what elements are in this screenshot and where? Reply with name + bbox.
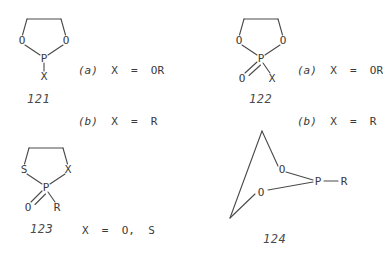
compound-number-123: 123 xyxy=(30,222,53,236)
legend-121-row-b: (b) X = R xyxy=(78,113,164,130)
legend-121-row-a: (a) X = OR xyxy=(78,62,164,79)
bond-123-xright-p xyxy=(50,174,65,184)
atom-label-122-o-right: O xyxy=(280,35,287,46)
legend-122-row-b: (b) X = R xyxy=(297,113,383,130)
legend-122-tag-b: (b) xyxy=(297,115,317,128)
legend-122-text-a: X = OR xyxy=(330,64,383,77)
bond-123-sleft-p xyxy=(27,174,42,184)
legend-122-row-a: (a) X = OR xyxy=(297,62,383,79)
bond-122-oleft-p xyxy=(242,45,257,55)
atom-label-124-o-upper: O xyxy=(279,164,286,175)
bond-124-apextop-oupper xyxy=(262,131,278,166)
bond-121-oleft-p xyxy=(25,45,40,55)
legend-121-text-b: X = R xyxy=(111,115,157,128)
atom-label-122-o-left: O xyxy=(236,35,243,46)
atom-label-123-x-right: X xyxy=(65,164,72,175)
atom-label-122-o-double: O xyxy=(239,73,246,84)
bond-122-p-o-double-b xyxy=(249,65,261,76)
atom-label-124-o-lower: O xyxy=(258,187,265,198)
legend-121-tag-a: (a) xyxy=(78,64,98,77)
atom-label-124-p: P xyxy=(315,176,322,187)
legend-123: X = O, S xyxy=(82,188,155,256)
atom-label-122-x: X xyxy=(269,73,276,84)
legend-121-text-a: X = OR xyxy=(111,64,164,77)
legend-121: (a) X = OR (b) X = R xyxy=(78,28,164,147)
atom-label-123-r: R xyxy=(54,202,61,213)
legend-122-tag-a: (a) xyxy=(297,64,317,77)
bond-121-oright-p xyxy=(48,45,63,55)
atom-label-123-o-double: O xyxy=(25,202,32,213)
atom-label-124-r: R xyxy=(341,176,348,187)
legend-123-row: X = O, S xyxy=(82,222,155,239)
atom-label-121-o-right: O xyxy=(63,35,70,46)
legend-122: (a) X = OR (b) X = R xyxy=(297,28,383,147)
atom-label-122-p: P xyxy=(258,53,265,64)
bond-123-p-o-double-a xyxy=(31,191,42,202)
atom-label-123-p: P xyxy=(43,182,50,193)
atom-label-121-p: P xyxy=(41,53,48,64)
atom-label-123-s-left: S xyxy=(21,164,28,175)
bond-124-apexleft-olower xyxy=(230,194,255,218)
bond-122-oright-p xyxy=(265,45,280,55)
compound-number-124: 124 xyxy=(263,232,286,246)
legend-122-text-b: X = R xyxy=(330,115,376,128)
compound-number-121: 121 xyxy=(27,92,50,106)
bond-122-p-o-double-a xyxy=(245,62,257,73)
compound-number-122: 122 xyxy=(249,92,272,106)
atom-label-121-o-left: O xyxy=(19,35,26,46)
bond-124-apextop-apexleft xyxy=(230,131,262,218)
legend-123-text: X = O, S xyxy=(82,224,155,237)
atom-label-121-x: X xyxy=(41,71,48,82)
bond-123-p-o-double-b xyxy=(35,194,46,205)
bond-124-oupper-p xyxy=(286,172,313,180)
legend-121-tag-b: (b) xyxy=(78,115,98,128)
bond-124-olower-p xyxy=(268,182,313,190)
